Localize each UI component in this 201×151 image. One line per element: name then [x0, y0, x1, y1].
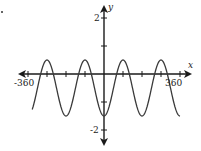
figure-marker-dot: [1, 11, 3, 13]
x-tick-label-max: 360: [165, 78, 182, 88]
y-tick-label-max: 2: [94, 13, 100, 23]
y-tick-label-min: -2: [90, 125, 99, 135]
function-curve: [32, 60, 180, 116]
y-axis-label: y: [107, 2, 114, 12]
x-tick-label-min: -360: [14, 78, 34, 88]
x-axis-label: x: [188, 60, 193, 70]
chart: x y -360 360 2 -2: [0, 0, 201, 151]
